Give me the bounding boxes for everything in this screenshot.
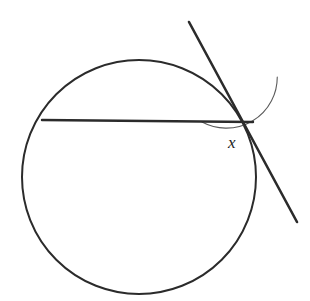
geometry-canvas	[0, 0, 310, 301]
geometry-figure: x	[0, 0, 310, 301]
angle-label-x: x	[228, 134, 236, 151]
circle-shape	[22, 60, 256, 294]
chord	[42, 120, 253, 122]
